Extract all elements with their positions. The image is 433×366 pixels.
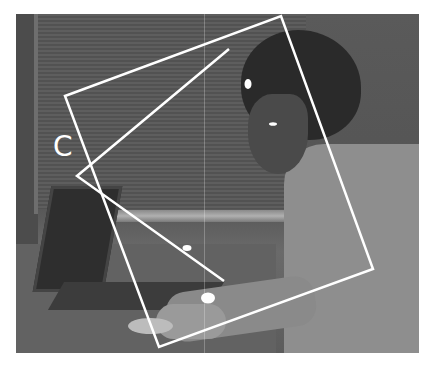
eye-marker <box>245 79 252 89</box>
hand-marker <box>201 293 215 304</box>
rotated-rectangle-outline <box>65 16 373 347</box>
cheek-marker <box>269 122 277 126</box>
panel-label: C <box>53 132 73 162</box>
marker-dots <box>183 79 278 304</box>
keyboard-marker <box>183 245 192 251</box>
annotation-overlay <box>0 0 433 366</box>
